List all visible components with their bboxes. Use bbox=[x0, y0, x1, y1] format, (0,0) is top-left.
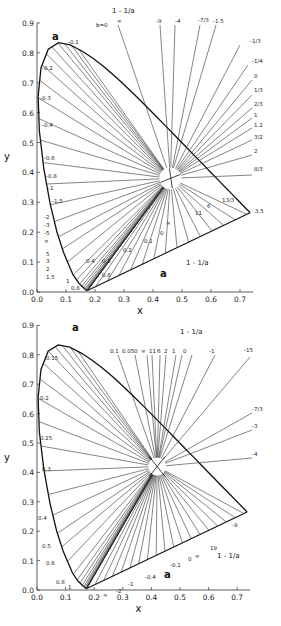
radial-line bbox=[79, 49, 171, 178]
y-tick-label: 0.5 bbox=[22, 439, 34, 448]
purple-line-label: ∞ bbox=[195, 553, 200, 559]
locus-label: 0.15 bbox=[46, 355, 59, 361]
purple-line-label: 0.4 bbox=[86, 258, 95, 264]
y-tick-label: 0.7 bbox=[22, 380, 34, 389]
outer-ray bbox=[170, 25, 200, 178]
locus-label: -0.4 bbox=[42, 122, 53, 128]
y-tick-label: 0.3 bbox=[22, 198, 34, 207]
locus-label: ∞ bbox=[44, 238, 49, 244]
outer-label: -7/3 bbox=[198, 17, 209, 23]
radial-line bbox=[68, 467, 158, 562]
radial-line bbox=[62, 178, 170, 249]
radial-line bbox=[80, 467, 157, 584]
outer-label: 2/3 bbox=[254, 101, 263, 107]
x-tick-label: 0.7 bbox=[231, 593, 243, 602]
radial-line bbox=[39, 119, 170, 179]
locus-label: 2 bbox=[46, 266, 50, 272]
outer-label: -3 bbox=[252, 423, 258, 429]
locus-label: -0.6 bbox=[44, 155, 55, 161]
radial-line bbox=[46, 54, 170, 179]
outer-ray bbox=[170, 175, 252, 178]
purple-line-label: 6 bbox=[207, 203, 211, 209]
radial-line-purple bbox=[104, 467, 158, 581]
locus-label: -1.5 bbox=[52, 198, 63, 204]
label-a-lower: a bbox=[164, 569, 171, 580]
bottom-chromaticity-plot: 0.00.10.20.30.40.50.60.70.00.10.20.30.40… bbox=[4, 321, 263, 614]
x-axis-label: x bbox=[136, 603, 142, 614]
outer-label: 0.05 bbox=[122, 348, 135, 354]
outer-label: 8/3 bbox=[254, 166, 263, 172]
locus-label: -0.8 bbox=[46, 173, 57, 179]
outer-ray bbox=[157, 430, 252, 467]
purple-line-label: 0.6 bbox=[102, 272, 111, 278]
purple-line-label: -2 bbox=[116, 588, 121, 594]
locus-label: 1 bbox=[66, 278, 70, 284]
radial-line bbox=[43, 363, 157, 466]
y-tick-label: 0.6 bbox=[22, 410, 34, 419]
label-one-minus-inv-a-top: 1 - 1/a bbox=[112, 7, 135, 15]
y-tick-label: 0.4 bbox=[22, 168, 34, 177]
locus-label: 0.4 bbox=[38, 515, 47, 521]
outer-label: -9 bbox=[156, 18, 162, 24]
outer-ray bbox=[170, 118, 252, 178]
locus-label: 0.5 bbox=[42, 543, 51, 549]
outer-label: -15 bbox=[244, 347, 253, 353]
purple-line-label: 0 bbox=[188, 556, 192, 562]
radial-line bbox=[77, 178, 171, 280]
radial-line bbox=[47, 178, 171, 184]
x-tick-label: 0.1 bbox=[60, 295, 72, 304]
outer-label: 1 bbox=[172, 348, 176, 354]
locus-label: -1 bbox=[48, 185, 53, 191]
locus-label: 0.3 bbox=[42, 466, 51, 472]
outer-ray bbox=[118, 355, 157, 467]
y-tick-label: 0.2 bbox=[22, 228, 34, 237]
purple-line-label: 3.5 bbox=[255, 208, 264, 214]
radial-line bbox=[78, 352, 157, 467]
label-one-minus-inv-a-top: 1 - 1/a bbox=[180, 328, 203, 336]
outer-label: 1 bbox=[254, 112, 258, 118]
y-tick-label: 0.7 bbox=[22, 79, 34, 88]
outer-label: 1.2 bbox=[254, 122, 263, 128]
outer-label: 1/3 bbox=[254, 87, 263, 93]
outer-label: 2 bbox=[254, 148, 258, 154]
radial-line bbox=[84, 467, 157, 587]
x-tick-label: 0.5 bbox=[174, 593, 186, 602]
purple-line-label: ∞ bbox=[103, 592, 108, 598]
purple-line-label: 0.1 bbox=[144, 238, 153, 244]
radial-line-purple bbox=[119, 178, 171, 275]
radial-line-purple bbox=[95, 467, 157, 585]
y-tick-label: 0.1 bbox=[22, 557, 34, 566]
outer-ray bbox=[152, 355, 157, 467]
radial-line-purple bbox=[112, 467, 157, 577]
locus-label: 3 bbox=[46, 258, 50, 264]
radial-line bbox=[82, 178, 171, 286]
spectral-locus-curve bbox=[38, 345, 247, 589]
outer-label: -1 bbox=[209, 348, 214, 354]
y-tick-label: 0.9 bbox=[22, 19, 34, 28]
outer-label: 6 bbox=[157, 348, 161, 354]
x-tick-label: 0.6 bbox=[203, 593, 215, 602]
radial-line bbox=[40, 140, 170, 178]
outer-label: -1/4 bbox=[252, 58, 263, 64]
locus-label: 0.8 bbox=[56, 579, 65, 585]
outer-ray bbox=[157, 458, 252, 467]
outer-label: 0 bbox=[254, 73, 258, 79]
purple-line-label: 13/3 bbox=[222, 197, 235, 203]
locus-label: -0.3 bbox=[40, 95, 51, 101]
locus-label: -5 bbox=[44, 230, 50, 236]
outer-ray bbox=[157, 357, 250, 467]
outer-ray bbox=[170, 45, 240, 178]
radial-line bbox=[43, 163, 170, 179]
radial-line bbox=[68, 178, 171, 262]
locus-label: 0.25 bbox=[40, 435, 53, 441]
radial-line bbox=[73, 467, 157, 575]
y-tick-label: 0.3 bbox=[22, 498, 34, 507]
outer-ray bbox=[170, 128, 252, 178]
outer-ray bbox=[157, 355, 176, 467]
outer-ray bbox=[170, 80, 252, 178]
radial-line bbox=[40, 379, 157, 466]
radial-line bbox=[58, 43, 170, 178]
locus-label: 5 bbox=[46, 251, 50, 257]
purple-line-label: 11 bbox=[195, 210, 202, 216]
label-a-upper: a bbox=[52, 31, 59, 42]
